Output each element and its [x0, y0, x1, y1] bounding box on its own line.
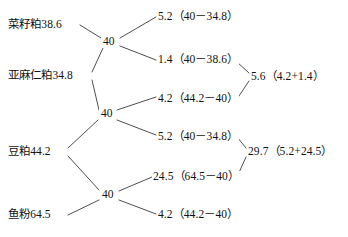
line-soybean-to-center-bottom	[68, 156, 99, 190]
line-soybean-to-center-middle	[68, 120, 98, 148]
line-fishmeal-to-center-bottom	[68, 200, 99, 215]
ingredient-rapeseed-meal: 菜籽粕38.6	[8, 19, 62, 31]
line-center-top-to-diff2	[120, 46, 156, 60]
line-linseed-to-center-middle	[92, 80, 99, 110]
line-center-bottom-to-diff6	[119, 200, 156, 214]
line-center-top-to-diff1	[120, 17, 156, 38]
line-center-bottom-to-diff5	[119, 177, 152, 191]
line-center-middle-to-diff4	[117, 120, 156, 135]
difference-value-4: 5.2（40－34.8）	[157, 131, 239, 143]
connector-lines	[0, 0, 348, 237]
difference-value-6: 4.2（44.2－40）	[157, 209, 239, 221]
ingredient-fish-meal: 鱼粉64.5	[8, 209, 51, 221]
ingredient-soybean-meal: 豆粕44.2	[8, 146, 51, 158]
difference-value-1: 5.2（40－34.8）	[157, 11, 239, 23]
line-linseed-to-center-top	[92, 48, 103, 72]
ingredient-linseed-meal: 亚麻仁粕34.8	[8, 70, 73, 82]
center-node-middle: 40	[99, 108, 115, 120]
center-node-bottom: 40	[100, 189, 116, 201]
center-node-top: 40	[101, 36, 117, 48]
sum-value-bottom: 29.7（5.2+24.5）	[247, 146, 334, 158]
pearson-square-diagram: 菜籽粕38.6 亚麻仁粕34.8 豆粕44.2 鱼粉64.5 40 40 40 …	[0, 0, 348, 237]
sum-value-top: 5.6（4.2+1.4）	[250, 71, 325, 83]
line-center-middle-to-diff3	[117, 97, 156, 110]
difference-value-2: 1.4（40－38.6）	[157, 54, 239, 66]
difference-value-5: 24.5（64.5－40）	[152, 171, 240, 183]
line-rapeseed-to-center-top	[80, 25, 101, 38]
difference-value-3: 4.2（44.2－40）	[157, 93, 239, 105]
